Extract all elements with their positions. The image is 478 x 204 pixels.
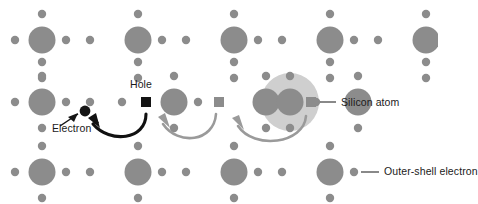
- outer-shell-electron: [278, 36, 286, 44]
- silicon-atom-label: Silicon atom: [341, 97, 399, 108]
- hole-marker-vacant: [306, 97, 316, 107]
- outer-shell-electron-label: Outer-shell electron: [384, 166, 478, 177]
- outer-shell-electron: [350, 36, 358, 44]
- silicon-atom: [253, 89, 280, 116]
- outer-shell-electron: [38, 124, 46, 132]
- outer-shell-electron: [38, 72, 46, 80]
- outer-shell-electron: [86, 36, 94, 44]
- outer-shell-electron: [254, 168, 262, 176]
- outer-shell-electron: [286, 72, 294, 80]
- outer-shell-electron: [230, 74, 238, 82]
- outer-shell-electron: [374, 36, 382, 44]
- silicon-atom: [413, 27, 439, 54]
- outer-shell-electron: [134, 58, 142, 66]
- outer-shell-electron: [278, 168, 286, 176]
- moving-electron-dot: [80, 106, 91, 117]
- silicon-atom: [317, 27, 344, 54]
- outer-shell-electron: [354, 124, 362, 132]
- outer-shell-electron: [230, 194, 238, 202]
- silicon-atom: [161, 89, 188, 116]
- outer-shell-electron: [230, 10, 238, 18]
- hole-marker-vacant: [214, 97, 224, 107]
- outer-shell-electron: [134, 10, 142, 18]
- outer-shell-electron: [230, 142, 238, 150]
- outer-shell-electron: [11, 168, 19, 176]
- silicon-atom: [221, 159, 248, 186]
- hole-label: Hole: [130, 79, 152, 90]
- outer-shell-electron: [354, 72, 362, 80]
- outer-shell-electron: [134, 142, 142, 150]
- outer-shell-electron: [62, 98, 70, 106]
- electron-leader-arrowhead: [68, 113, 78, 122]
- outer-shell-electron: [62, 36, 70, 44]
- outer-shell-electron: [118, 98, 126, 106]
- silicon-atom: [29, 27, 56, 54]
- outer-shell-electron: [422, 58, 430, 66]
- silicon-atom-highlighted: [277, 89, 304, 116]
- outer-shell-electron: [194, 98, 202, 106]
- lattice-row-bottom: [11, 159, 358, 203]
- outer-shell-electron: [38, 58, 46, 66]
- outer-shell-electron: [326, 142, 334, 150]
- outer-shell-electron-callout-target: [350, 168, 358, 176]
- silicon-atom: [125, 159, 152, 186]
- outer-shell-electron: [326, 194, 334, 202]
- outer-shell-electron: [134, 194, 142, 202]
- outer-shell-electron: [11, 36, 19, 44]
- outer-shell-electron: [286, 124, 294, 132]
- electron-label: Electron: [52, 123, 91, 134]
- outer-shell-electron: [86, 98, 94, 106]
- electron-jump-arrow: [88, 113, 146, 137]
- silicon-atom: [29, 159, 56, 186]
- outer-shell-electron: [38, 142, 46, 150]
- outer-shell-electron: [62, 168, 70, 176]
- hole-move-arrow-1: [158, 113, 216, 138]
- outer-shell-electron: [230, 58, 238, 66]
- hole-marker-filled: [141, 97, 151, 107]
- outer-shell-electron: [182, 168, 190, 176]
- silicon-atom: [317, 159, 344, 186]
- outer-shell-electron: [262, 124, 270, 132]
- outer-shell-electron: [262, 72, 270, 80]
- outer-shell-electron: [158, 36, 166, 44]
- lattice-row-top: [11, 10, 438, 82]
- silicon-atom: [221, 27, 248, 54]
- silicon-atom: [125, 27, 152, 54]
- silicon-atom: [29, 89, 56, 116]
- outer-shell-electron: [38, 194, 46, 202]
- outer-shell-electron: [326, 58, 334, 66]
- outer-shell-electron: [158, 168, 166, 176]
- outer-shell-electron: [86, 168, 94, 176]
- outer-shell-electron: [422, 74, 430, 82]
- outer-shell-electron: [422, 10, 430, 18]
- outer-shell-electron: [11, 98, 19, 106]
- outer-shell-electron: [254, 36, 262, 44]
- outer-shell-electron: [38, 10, 46, 18]
- outer-shell-electron: [326, 10, 334, 18]
- outer-shell-electron: [182, 36, 190, 44]
- outer-shell-electron: [170, 72, 178, 80]
- outer-shell-electron: [326, 74, 334, 82]
